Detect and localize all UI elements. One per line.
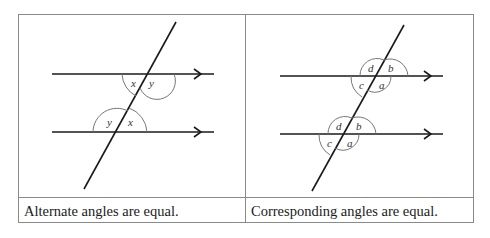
angle-label-d-lower: d [336, 120, 342, 132]
caption-corresponding: Corresponding angles are equal. [251, 200, 438, 222]
caption-alternate: Alternate angles are equal. [24, 200, 179, 222]
angle-label-a-upper: a [379, 79, 385, 91]
angle-label-b-upper: b [388, 62, 394, 74]
angle-label-y-lower: y [106, 116, 112, 128]
parallel-line-lower [52, 127, 214, 137]
angle-label-a-lower: a [347, 137, 353, 149]
angle-label-c-lower: c [327, 137, 332, 149]
angle-label-d-upper: d [368, 62, 374, 74]
transversal-line [312, 25, 404, 191]
angle-label-c-upper: c [359, 79, 364, 91]
angle-label-x-upper: x [130, 77, 136, 89]
angle-label-b-lower: b [356, 120, 362, 132]
corresponding-angles-diagram: d b c a d b c a [280, 25, 443, 191]
angle-label-y-upper: y [148, 77, 154, 89]
angle-label-x-lower: x [127, 116, 133, 128]
transversal-line [84, 22, 176, 189]
